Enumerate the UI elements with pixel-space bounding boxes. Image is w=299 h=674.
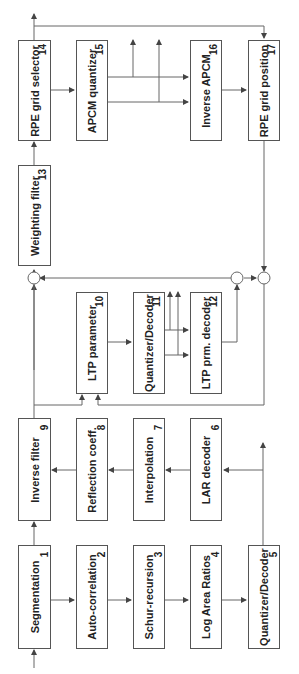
block-log-area-ratios: Log Area Ratios 4 — [190, 545, 222, 649]
block-interpolation: Interpolation 7 — [133, 418, 165, 521]
block-inverse-filter: Inverse filter 9 — [18, 418, 51, 521]
block-quantizer-decoder-5: Quantizer/Decoder 5 — [248, 545, 280, 649]
block-rpe-grid-position: RPE grid position 17 — [248, 40, 280, 141]
block-ltp-prm-decoder: LTP prm. decoder 12 — [190, 292, 222, 394]
block-ltp-parameter: LTP parameter 10 — [76, 292, 108, 394]
block-segmentation: Segmentation 1 — [18, 545, 51, 649]
block-rpe-grid-selector: RPE grid selector 14 — [18, 40, 51, 141]
block-quantizer-decoder-11: Quantizer/Decoder 11 — [133, 292, 165, 394]
block-auto-correlation: Auto-correlation 2 — [76, 545, 108, 649]
block-apcm-quantizer: APCM quantizer 15 — [76, 40, 108, 141]
block-schur-recursion: Schur-recursion 3 — [133, 545, 165, 649]
block-lar-decoder: LAR decoder 6 — [190, 418, 222, 521]
summation-node-3 — [258, 272, 270, 284]
summation-node-2 — [231, 272, 243, 284]
block-inverse-apcm: Inverse APCM 16 — [190, 40, 222, 141]
block-reflection-coeff: Reflection coeff. 8 — [76, 418, 108, 521]
summation-node-1 — [28, 272, 40, 284]
block-weighting-filter: Weighting filter 13 — [18, 165, 51, 266]
